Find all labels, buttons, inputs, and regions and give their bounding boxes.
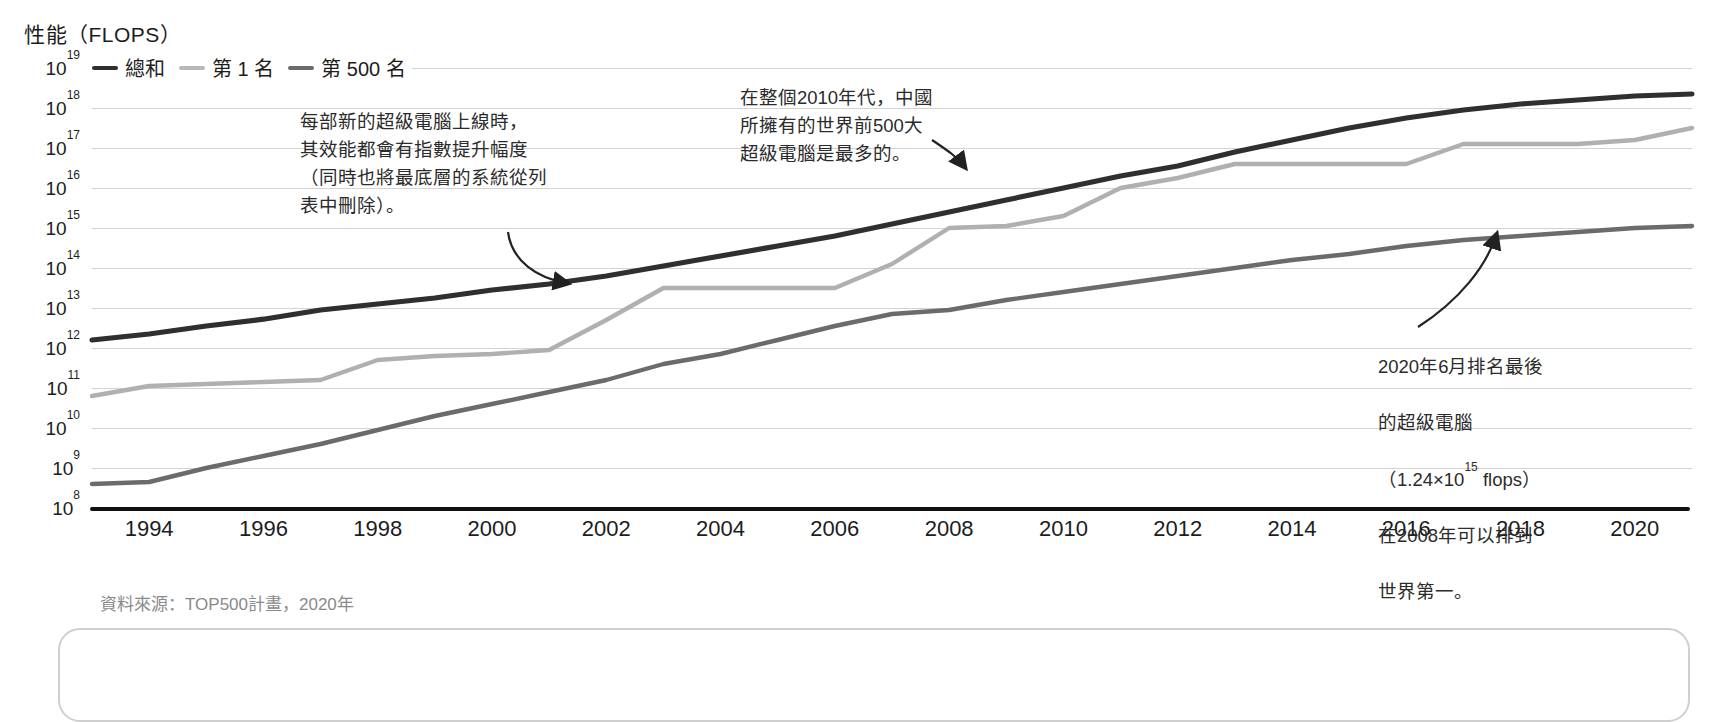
- x-tick-2004: 2004: [696, 516, 745, 542]
- x-tick-2010: 2010: [1039, 516, 1088, 542]
- x-tick-2014: 2014: [1268, 516, 1317, 542]
- annot3-line2: 的超級電腦: [1378, 409, 1543, 437]
- x-tick-2012: 2012: [1153, 516, 1202, 542]
- legend-label-rank1: 第 1 名: [212, 53, 274, 82]
- x-tick-1994: 1994: [125, 516, 174, 542]
- legend-item-rank500: 第 500 名: [288, 53, 405, 82]
- y-tick-1e19: 1019: [46, 56, 81, 79]
- y-tick-1e16: 1016: [46, 176, 81, 199]
- x-tick-2006: 2006: [810, 516, 859, 542]
- source-note: 資料來源：TOP500計畫，2020年: [100, 590, 354, 615]
- y-tick-1e14: 1014: [46, 256, 81, 279]
- y-tick-1e9: 109: [52, 456, 80, 479]
- annot3-line5: 世界第一。: [1378, 578, 1543, 606]
- legend-label-rank500: 第 500 名: [321, 53, 405, 82]
- x-tick-2000: 2000: [468, 516, 517, 542]
- legend-swatch-rank500: [288, 66, 314, 70]
- annotation-china-top500: 在整個2010年代，中國 所擁有的世界前500大 超級電腦是最多的。: [740, 84, 933, 168]
- x-tick-2002: 2002: [582, 516, 631, 542]
- annot3-line1: 2020年6月排名最後: [1378, 353, 1543, 381]
- annot3-line3-post: flops）: [1478, 469, 1541, 490]
- legend-label-total: 總和: [125, 53, 165, 82]
- chart-legend: 總和 第 1 名 第 500 名: [92, 53, 412, 82]
- legend-swatch-rank1: [179, 66, 205, 70]
- y-tick-1e15: 1015: [46, 216, 81, 239]
- legend-item-rank1: 第 1 名: [179, 53, 274, 82]
- annot3-line4: 在2008年可以排到: [1378, 522, 1543, 550]
- annot3-line3-exponent: 15: [1464, 460, 1477, 474]
- y-tick-1e8: 108: [52, 496, 80, 519]
- y-tick-1e10: 1010: [46, 416, 81, 439]
- y-axis-labels: 1019101810171016101510141013101210111010…: [0, 68, 80, 508]
- y-tick-1e13: 1013: [46, 296, 81, 319]
- page-title: 性能（FLOPS）: [24, 18, 181, 48]
- legend-swatch-total: [92, 66, 118, 70]
- y-tick-1e12: 1012: [46, 336, 81, 359]
- x-tick-1996: 1996: [239, 516, 288, 542]
- annotation-last-ranked-2020: 2020年6月排名最後 的超級電腦 （1.24×1015 flops） 在200…: [1378, 325, 1543, 634]
- y-tick-1e18: 1018: [46, 96, 81, 119]
- x-tick-2008: 2008: [925, 516, 974, 542]
- legend-item-total: 總和: [92, 53, 165, 82]
- annotation-exponential-growth: 每部新的超級電腦上線時， 其效能都會有指數提升幅度 （同時也將最底層的系統從列 …: [300, 108, 547, 220]
- bottom-panel-frame: [58, 628, 1690, 722]
- annot3-line3: （1.24×1015 flops）: [1378, 466, 1543, 494]
- annot3-line3-pre: （1.24×10: [1378, 469, 1464, 490]
- x-tick-2020: 2020: [1610, 516, 1659, 542]
- x-tick-1998: 1998: [353, 516, 402, 542]
- y-tick-1e17: 1017: [46, 136, 81, 159]
- y-tick-1e11: 1011: [46, 376, 80, 399]
